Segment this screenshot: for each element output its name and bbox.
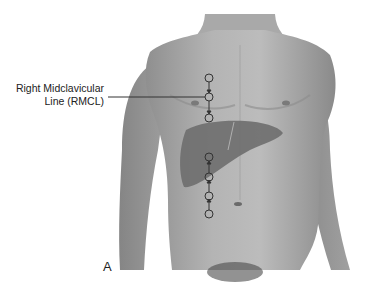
right-nipple: [191, 101, 199, 106]
panel-letter: A: [103, 259, 112, 274]
torso-illustration: [0, 0, 367, 285]
left-nipple: [282, 101, 290, 106]
navel: [234, 202, 242, 206]
anatomy-figure: Right Midclavicular Line (RMCL) A: [0, 0, 367, 285]
rmcl-label-line1: Right Midclavicular: [2, 82, 104, 95]
rmcl-label-line2: Line (RMCL): [2, 95, 104, 108]
rmcl-label: Right Midclavicular Line (RMCL): [2, 82, 104, 108]
